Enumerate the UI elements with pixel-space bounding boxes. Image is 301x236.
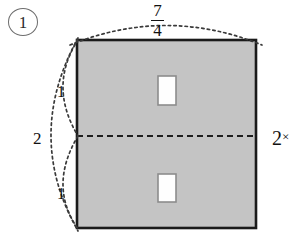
inner-square-lower <box>158 174 176 202</box>
fraction-denominator: 4 <box>151 22 164 39</box>
left-total-height-label: 2 <box>33 130 42 147</box>
right-height-label: 2× <box>272 128 289 148</box>
inner-square-upper <box>158 76 176 105</box>
left-lower-half-label: 1 <box>57 186 65 202</box>
fraction-numerator: 7 <box>151 2 164 19</box>
left-upper-half-label: 1 <box>57 84 65 100</box>
right-height-value: 2 <box>272 127 282 149</box>
multiplication-sign-icon: × <box>282 129 289 144</box>
top-width-label-fraction: 7 4 <box>151 2 164 39</box>
geometry-figure: 1 7 4 2× 2 1 1 <box>0 0 301 236</box>
